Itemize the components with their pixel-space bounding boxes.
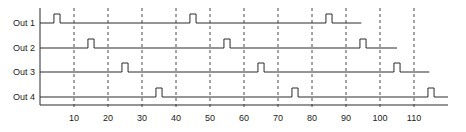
x-tick-label: 50 [205, 113, 215, 123]
signal-labels: Out 1Out 2Out 3Out 4 [13, 18, 35, 102]
signal-trace-out-3 [40, 63, 429, 72]
x-tick-label: 70 [273, 113, 283, 123]
x-tick-label: 40 [171, 113, 181, 123]
timing-diagram: 102030405060708090100110 Out 1Out 2Out 3… [0, 0, 466, 132]
signal-label-out-4: Out 4 [13, 92, 35, 102]
x-tick-label: 10 [69, 113, 79, 123]
signal-label-out-3: Out 3 [13, 67, 35, 77]
x-tick-label: 20 [103, 113, 113, 123]
signal-label-out-2: Out 2 [13, 43, 35, 53]
x-tick-label: 90 [341, 113, 351, 123]
x-tick-label: 30 [137, 113, 147, 123]
signal-trace-out-2 [40, 39, 397, 48]
x-tick-label: 110 [407, 113, 421, 123]
x-tick-label: 100 [372, 113, 387, 123]
x-tick-label: 60 [239, 113, 249, 123]
signal-label-out-1: Out 1 [13, 18, 35, 28]
signal-trace-out-1 [40, 14, 361, 23]
x-tick-label: 80 [307, 113, 317, 123]
